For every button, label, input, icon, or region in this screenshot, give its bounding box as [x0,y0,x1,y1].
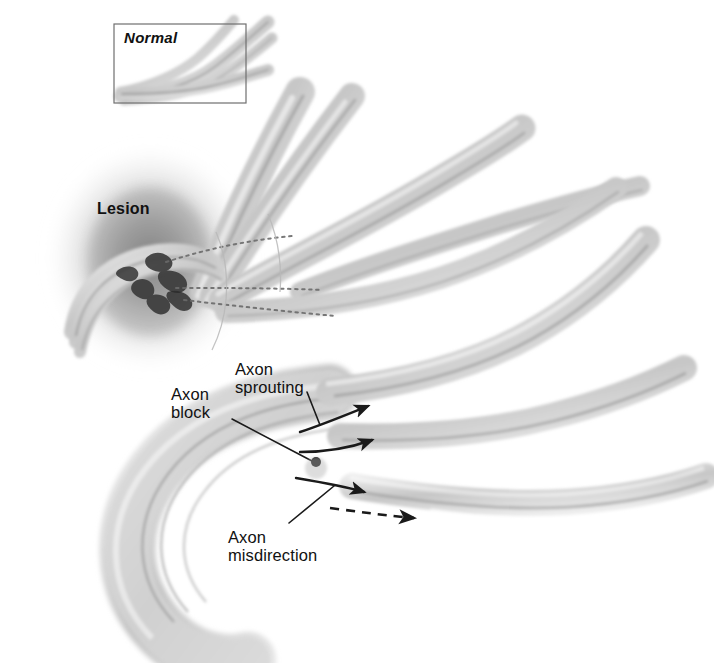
lesion-label: Lesion [97,200,150,218]
axon-sprouting-label: Axon sprouting [235,360,304,397]
normal-inset-label: Normal [124,30,177,47]
axon-misdirection-label: Axon misdirection [228,528,317,565]
upper-nerve-branches [198,92,642,316]
nerve-regeneration-figure: Normal Lesion Axon block Axon sprouting … [0,0,714,663]
axon-misdirection-arrow [330,508,414,518]
nerve-illustration [0,0,714,663]
leader-axon-misdirection [289,486,334,523]
axon-block-label: Axon block [171,385,210,422]
